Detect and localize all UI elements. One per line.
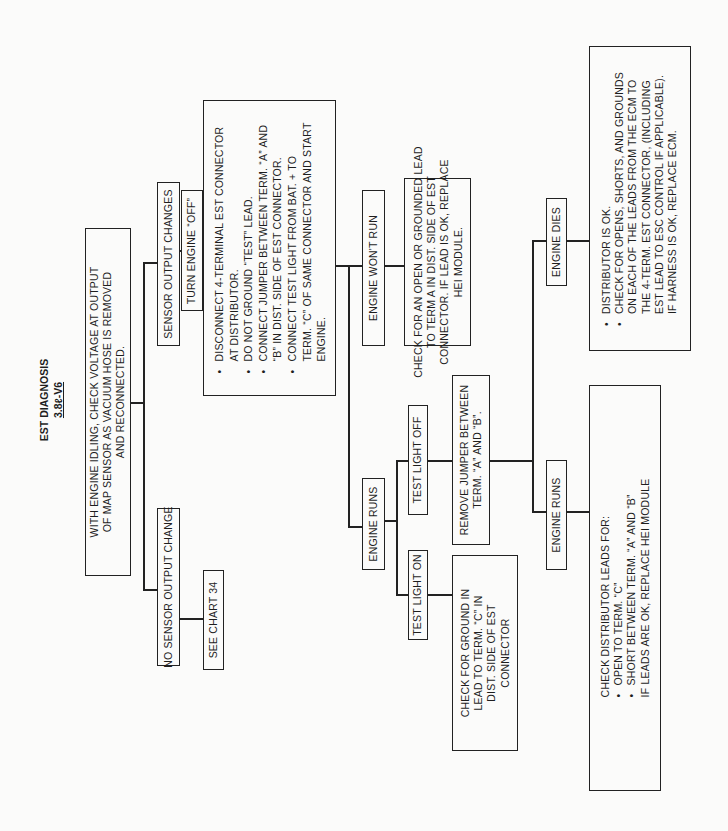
connector — [335, 265, 349, 267]
node-text: TERM. “A” AND “B”. — [471, 385, 484, 536]
node-sensor-output-changes: SENSOR OUTPUT CHANGES — [157, 182, 180, 346]
node-engine-runs-after-jumper: ENGINE RUNS — [546, 460, 567, 570]
node-text: TO TERM A IN DIST. SIDE OF EST — [424, 146, 437, 377]
connector — [143, 262, 158, 264]
node-root-check-voltage: WITH ENGINE IDLING, CHECK VOLTAGE AT OUT… — [85, 228, 131, 576]
node-text: CONNECTOR — [498, 589, 511, 718]
node-check-ground-term-c: CHECK FOR GROUND IN LEAD TO TERM. “C” IN… — [452, 555, 518, 751]
connector — [348, 265, 363, 267]
node-distributor-ok-check-harness: DISTRIBUTOR IS OK. CHECK FOR OPENS, SHOR… — [589, 46, 691, 351]
node-text: HEI MODULE. — [451, 146, 464, 377]
connector — [567, 240, 590, 242]
node-engine-wont-run: ENGINE WON'T RUN — [362, 190, 385, 346]
connector — [348, 526, 363, 528]
node-see-chart-34: SEE CHART 34 — [203, 570, 224, 670]
node-text: SEE CHART 34 — [207, 582, 219, 659]
node-text: “B” IN DIST. SIDE OF EST CONNECTOR. — [270, 123, 285, 374]
node-text: AND RECONNECTED. — [115, 267, 128, 538]
node-engine-runs: ENGINE RUNS — [362, 478, 385, 570]
node-remove-jumper: REMOVE JUMPER BETWEEN TERM. “A” AND “B”. — [452, 375, 490, 545]
node-text: ENGINE. — [313, 123, 328, 374]
node-text: DO NOT GROUND “TEST” LEAD. — [240, 123, 255, 374]
node-disconnect-est-connector: DISCONNECT 4-TERMINAL EST CONNECTOR AT D… — [203, 100, 336, 396]
node-text: NO SENSOR OUTPUT CHANGE — [162, 506, 174, 667]
connector — [532, 240, 534, 512]
node-text: SENSOR OUTPUT CHANGES — [162, 189, 174, 338]
node-text: IF LEADS ARE OK, REPLACE HEI MODULE — [638, 479, 651, 698]
node-text: CHECK FOR AN OPEN OR GROUNDED LEAD — [411, 146, 424, 377]
node-text: TURN ENGINE “OFF” — [185, 197, 197, 304]
connector — [396, 460, 398, 595]
connector — [348, 265, 350, 527]
connector — [385, 265, 405, 267]
connector — [143, 262, 145, 590]
node-text: ENGINE RUNS — [367, 486, 379, 561]
node-text: EST LEAD TO ESC CONTROL IF APPLICABLE). — [653, 71, 666, 325]
node-engine-dies: ENGINE DIES — [546, 198, 567, 286]
title-main: EST DIAGNOSIS — [37, 359, 51, 441]
diagram-title: EST DIAGNOSIS 3.8ℓ-V6 — [37, 359, 65, 441]
node-check-distributor-leads: CHECK DISTRIBUTOR LEADS FOR: OPEN TO TER… — [589, 385, 661, 791]
node-test-light-on: TEST LIGHT ON — [408, 550, 428, 640]
node-text: LEAD TO TERM. “C” IN — [472, 589, 485, 718]
node-text: SHORT BETWEEN TERM. “A” AND “B” — [625, 479, 638, 698]
node-text: TEST LIGHT ON — [411, 554, 423, 636]
node-text: DISTRIBUTOR IS OK. — [600, 71, 613, 325]
title-engine: 3.8ℓ-V6 — [51, 359, 65, 441]
connector — [567, 511, 590, 513]
node-text: REMOVE JUMPER BETWEEN — [458, 385, 471, 536]
node-text: CONNECT JUMPER BETWEEN TERM. “A” AND — [255, 123, 270, 374]
node-test-light-off: TEST LIGHT OFF — [408, 405, 428, 515]
node-text: OPEN TO TERM. “C” — [612, 479, 625, 698]
connector — [532, 240, 547, 242]
node-text: CONNECTOR. IF LEAD IS OK, REPLACE — [438, 146, 451, 377]
node-text: CONNECT TEST LIGHT FROM BAT. + TO — [284, 123, 299, 374]
node-text: ENGINE DIES — [550, 207, 562, 277]
node-text: ON EACH OF THE LEADS FROM THE ECM TO — [627, 71, 640, 325]
node-check-open-grounded-lead: CHECK FOR AN OPEN OR GROUNDED LEAD TO TE… — [404, 178, 471, 346]
node-text: DIST. SIDE OF EST — [485, 589, 498, 718]
connector — [428, 460, 453, 462]
node-text: OF MAP SENSOR AS VACUUM HOSE IS REMOVED — [101, 267, 114, 538]
node-turn-engine-off: TURN ENGINE “OFF” — [181, 190, 203, 311]
connector — [490, 460, 533, 462]
node-text: CHECK DISTRIBUTOR LEADS FOR: — [599, 479, 612, 698]
node-text: IF HARNESS IS OK, REPLACE ECM. — [666, 71, 679, 325]
node-text: THE 4-TERM. EST CONNECTOR, (INCLUDING — [640, 71, 653, 325]
node-no-sensor-output-change: NO SENSOR OUTPUT CHANGE — [157, 508, 180, 666]
node-text: DISCONNECT 4-TERMINAL EST CONNECTOR — [211, 123, 226, 374]
node-text: AT DISTRIBUTOR. — [226, 123, 241, 374]
connector — [532, 511, 547, 513]
node-text: CHECK FOR OPENS, SHORTS, AND GROUNDS — [614, 71, 627, 325]
connector — [130, 402, 144, 404]
node-text: TERM. “C” OF SAME CONNECTOR AND START — [299, 123, 314, 374]
node-text: TEST LIGHT OFF — [411, 416, 423, 503]
node-text: ENGINE RUNS — [550, 477, 562, 552]
node-text: CHECK FOR GROUND IN — [459, 589, 472, 718]
node-text: ENGINE WON'T RUN — [367, 215, 379, 321]
connector — [428, 594, 453, 596]
connector — [180, 618, 204, 620]
node-text: WITH ENGINE IDLING, CHECK VOLTAGE AT OUT… — [88, 267, 101, 538]
connector — [143, 589, 158, 591]
